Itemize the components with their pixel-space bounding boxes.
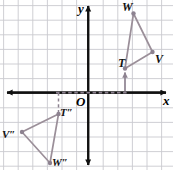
coordinate-plane-figure: T W V T″ V″ W″ O y x [0, 0, 173, 170]
origin-label: O [76, 95, 85, 108]
label-V-double-prime: V″ [2, 129, 15, 140]
label-W: W [122, 1, 133, 13]
label-W-double-prime: W″ [52, 157, 68, 168]
triangle-TWV-outline [125, 14, 153, 69]
figure-canvas [0, 0, 173, 170]
vertex-V-double-prime [20, 130, 24, 134]
label-T-double-prime: T″ [60, 107, 73, 118]
label-V: V [155, 53, 163, 65]
x-axis-label: x [163, 94, 170, 107]
y-axis-label: y [78, 2, 84, 15]
label-T: T [118, 57, 125, 69]
grid-lines [0, 0, 173, 170]
